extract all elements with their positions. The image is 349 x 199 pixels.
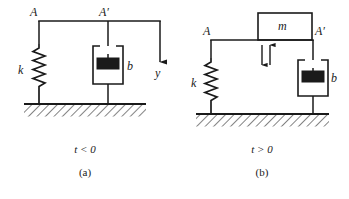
panel-a-damper-label: b: [127, 59, 133, 74]
panel-b-spring: [205, 58, 217, 114]
figure-spring-damper-system: A A′ k b y t < 0 (a) A A′ m k b t > 0 (b…: [0, 0, 349, 199]
panel-a-ground-hatching: [24, 105, 146, 117]
panel-a-label-A: A: [30, 5, 37, 20]
panel-a-diagram: [24, 21, 160, 117]
panel-b-index-caption: (b): [212, 166, 312, 178]
panel-b-diagram: [196, 13, 329, 127]
panel-b-ground-hatching: [196, 115, 329, 127]
panel-a-damper-piston: [97, 58, 119, 69]
panel-b-mass-label: m: [278, 19, 287, 34]
panel-b-damper-piston: [302, 71, 324, 82]
panel-a-index-caption: (a): [35, 166, 135, 178]
panel-a-spring-label: k: [18, 63, 23, 78]
panel-a-label-A-prime: A′: [99, 5, 109, 20]
panel-b-label-A: A: [203, 24, 210, 39]
panel-b-condition-caption: t > 0: [212, 143, 312, 155]
panel-a-displacement-label: y: [155, 66, 160, 81]
panel-b-damper-label: b: [331, 71, 337, 86]
panel-b-spring-label: k: [191, 76, 196, 91]
panel-a-condition-caption: t < 0: [35, 143, 135, 155]
panel-b-label-A-prime: A′: [315, 24, 325, 39]
panel-a-spring: [33, 44, 45, 104]
